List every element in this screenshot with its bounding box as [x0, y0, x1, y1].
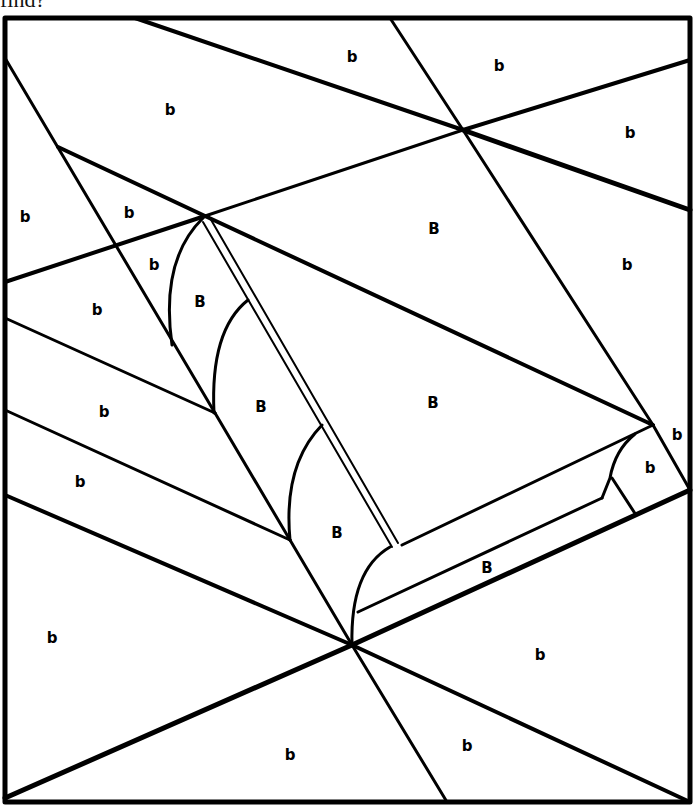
region-label-b: b	[124, 204, 135, 222]
border-line	[5, 58, 215, 413]
coloring-puzzle-canvas: bbbbbbBbbBbBBbbbbBBbbbb	[0, 0, 693, 806]
page-curve	[289, 425, 322, 540]
border-line	[463, 130, 690, 210]
border-line	[352, 490, 690, 645]
page-curve	[214, 300, 248, 413]
region-label-b: b	[625, 124, 636, 142]
region-label-b: b	[622, 256, 633, 274]
book-page-curves	[169, 218, 635, 645]
border-line	[203, 222, 392, 547]
border-line	[290, 540, 352, 645]
region-label-b: b	[92, 301, 103, 319]
region-label-b: b	[672, 426, 683, 444]
border-line	[5, 645, 352, 798]
region-label-b: b	[20, 208, 31, 226]
border-line	[358, 498, 602, 612]
border-line	[5, 410, 290, 540]
region-label-b: b	[462, 737, 473, 755]
region-label-B: B	[481, 559, 492, 577]
border-line	[352, 645, 690, 802]
border-line	[215, 413, 290, 540]
region-label-b: b	[75, 473, 86, 491]
region-label-B: B	[255, 398, 266, 416]
region-label-b: b	[347, 48, 358, 66]
region-label-b: b	[165, 101, 176, 119]
region-label-B: B	[194, 293, 205, 311]
region-label-b: b	[149, 256, 160, 274]
border-line	[5, 495, 352, 645]
region-label-B: B	[331, 524, 342, 542]
border-line	[205, 130, 463, 216]
region-label-b: b	[645, 459, 656, 477]
border-line	[612, 478, 636, 515]
border-line	[210, 218, 398, 543]
border-line	[5, 318, 215, 413]
region-label-b: b	[494, 57, 505, 75]
region-label-b: b	[535, 646, 546, 664]
region-label-b: b	[47, 629, 58, 647]
border-line	[390, 18, 463, 130]
region-labels: bbbbbbBbbBbBBbbbbBBbbbb	[20, 48, 683, 764]
region-label-B: B	[428, 220, 439, 238]
page-curve	[169, 218, 203, 345]
region-label-b: b	[99, 403, 110, 421]
region-label-B: B	[427, 394, 438, 412]
border-line	[135, 18, 463, 130]
region-label-b: b	[285, 746, 296, 764]
